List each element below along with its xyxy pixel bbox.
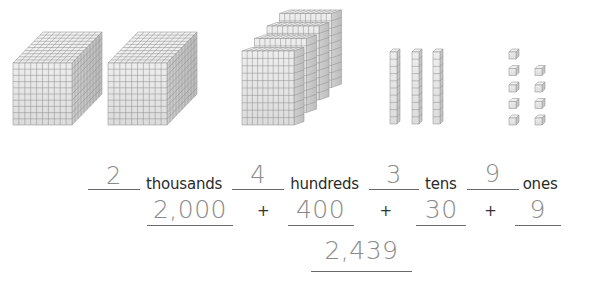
ones-term: 9 [515, 195, 561, 224]
tens-answer: 3 [369, 161, 419, 189]
thousands-label: thousands [146, 175, 222, 193]
hundreds-term-blank[interactable]: 400 [288, 193, 354, 226]
thousands-term-blank[interactable]: 2,000 [147, 193, 233, 226]
plus-sign-2: + [380, 202, 393, 220]
hundreds-label: hundreds [290, 175, 359, 193]
standard-form-row: 2,439 [311, 238, 412, 272]
base-ten-blocks [0, 0, 597, 140]
thousands-cubes [13, 32, 197, 125]
tens-label: tens [425, 175, 457, 193]
standard-form-answer: 2,439 [311, 236, 412, 265]
plus-sign-1: + [257, 202, 270, 220]
hundreds-flats [242, 10, 342, 125]
expanded-form-row: 2,000 + 400 + 30 + 9 [147, 192, 561, 226]
tens-term-blank[interactable]: 30 [416, 193, 466, 226]
hundreds-term: 400 [288, 195, 354, 224]
hundreds-answer-blank[interactable]: 4 [232, 161, 284, 190]
tens-rods [390, 49, 443, 124]
ones-cubes [509, 49, 545, 125]
ones-answer-blank[interactable]: 9 [467, 161, 519, 190]
hundreds-answer: 4 [232, 161, 284, 189]
tens-answer-blank[interactable]: 3 [369, 161, 419, 190]
thousands-answer: 2 [88, 162, 140, 190]
ones-label: ones [523, 175, 558, 193]
standard-form-blank[interactable]: 2,439 [311, 239, 412, 272]
plus-sign-3: + [484, 202, 497, 220]
ones-term-blank[interactable]: 9 [515, 193, 561, 226]
thousands-term: 2,000 [147, 195, 233, 224]
place-value-row: 2 thousands 4 hundreds 3 tens 9 ones [88, 160, 558, 190]
tens-term: 30 [416, 195, 466, 224]
thousands-answer-blank[interactable]: 2 [88, 161, 140, 190]
ones-answer: 9 [467, 160, 519, 188]
